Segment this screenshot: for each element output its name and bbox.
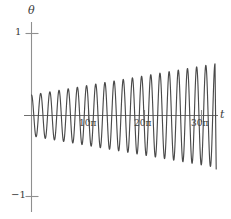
- plot-area: [0, 0, 231, 219]
- x-axis-label: t: [220, 109, 224, 120]
- theta-oscillation-curve: [32, 64, 217, 169]
- x-tick-label-twenty-pi: 20π: [134, 119, 151, 128]
- y-axis-label: θ: [28, 5, 35, 16]
- oscillation-chart-figure: θ t 1 −1 10π 20π 30π: [0, 0, 231, 219]
- y-tick-label-one: 1: [15, 27, 21, 37]
- x-tick-label-ten-pi: 10π: [79, 119, 96, 128]
- y-tick-label-negative-one: −1: [11, 190, 26, 200]
- x-tick-label-thirty-pi: 30π: [191, 119, 208, 128]
